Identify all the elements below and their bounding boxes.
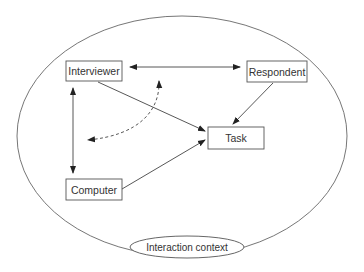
- node-computer: Computer: [66, 179, 122, 200]
- interaction-context-label: Interaction context: [146, 242, 228, 253]
- node-task: Task: [208, 127, 264, 149]
- edge-computer-task: [122, 140, 205, 189]
- node-respondent: Respondent: [247, 61, 307, 82]
- node-interviewer: Interviewer: [66, 61, 122, 81]
- node-respondent-label: Respondent: [249, 66, 306, 78]
- interaction-context-boundary: [17, 16, 347, 256]
- interaction-diagram: Interviewer Respondent Task Computer Int…: [0, 0, 364, 272]
- interaction-context-tag: Interaction context: [130, 236, 244, 258]
- node-task-label: Task: [225, 132, 247, 144]
- node-computer-label: Computer: [71, 184, 118, 196]
- edge-interviewer-task: [98, 82, 205, 131]
- edge-dashed-mediation: [88, 81, 159, 140]
- node-interviewer-label: Interviewer: [68, 65, 120, 77]
- edge-respondent-task: [233, 83, 273, 124]
